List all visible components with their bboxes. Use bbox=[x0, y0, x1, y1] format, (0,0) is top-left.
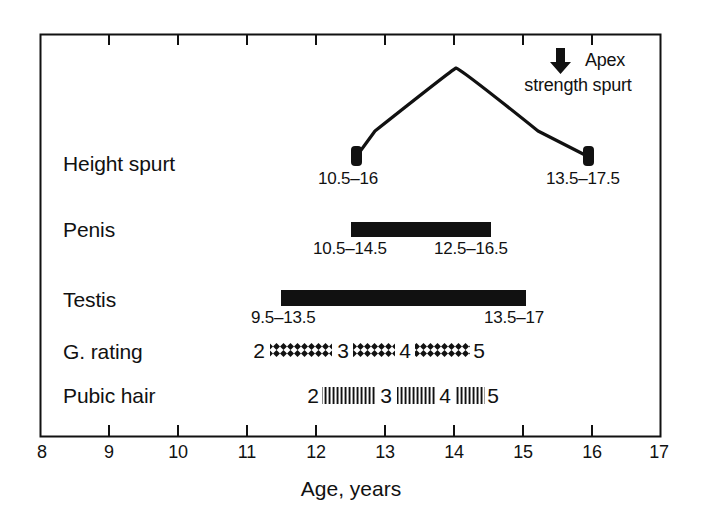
xtick-label-16: 16 bbox=[582, 443, 602, 461]
row-label-testis: Testis bbox=[63, 289, 116, 310]
xtick-label-13: 13 bbox=[375, 443, 395, 461]
pubic-hair-hatch-segments bbox=[322, 387, 485, 404]
pubic-hair-stage-5: 5 bbox=[487, 385, 499, 406]
pubic-hair-stage-2: 2 bbox=[307, 385, 319, 406]
bottom-axis-ticks bbox=[109, 425, 592, 436]
g-rating-stage-4: 4 bbox=[399, 340, 411, 361]
g-rating-hatch-segments bbox=[270, 343, 470, 357]
xtick-label-14: 14 bbox=[444, 443, 464, 461]
xtick-label-8: 8 bbox=[37, 443, 47, 461]
range-label-testis-left: 9.5–13.5 bbox=[251, 309, 316, 326]
range-label-penis-right: 12.5–16.5 bbox=[434, 240, 508, 257]
penis-bar bbox=[351, 222, 491, 237]
g-rating-stage-2: 2 bbox=[253, 340, 265, 361]
xtick-label-15: 15 bbox=[513, 443, 533, 461]
xtick-label-9: 9 bbox=[104, 443, 114, 461]
pubic-hair-stage-3: 3 bbox=[380, 385, 392, 406]
xtick-label-17: 17 bbox=[649, 443, 669, 461]
puberty-sequence-figure: Height spurt Penis Testis G. rating Pubi… bbox=[0, 0, 703, 511]
testis-bar bbox=[281, 290, 526, 306]
xtick-label-10: 10 bbox=[168, 443, 188, 461]
range-label-height-left: 10.5–16 bbox=[318, 170, 378, 187]
top-axis-ticks bbox=[109, 34, 592, 45]
height-spurt-start-marker bbox=[351, 146, 362, 166]
apex-annotation-line2: strength spurt bbox=[524, 76, 631, 94]
range-label-height-right: 13.5–17.5 bbox=[546, 170, 620, 187]
row-label-pubic-hair: Pubic hair bbox=[63, 385, 155, 406]
xtick-label-11: 11 bbox=[238, 443, 256, 461]
g-rating-stage-3: 3 bbox=[337, 340, 349, 361]
row-label-penis: Penis bbox=[63, 219, 115, 240]
g-rating-stage-5: 5 bbox=[473, 340, 485, 361]
apex-annotation-line1: Apex bbox=[585, 51, 625, 69]
range-label-penis-left: 10.5–14.5 bbox=[313, 240, 387, 257]
row-label-height-spurt: Height spurt bbox=[63, 153, 175, 174]
range-label-testis-right: 13.5–17 bbox=[484, 309, 544, 326]
row-label-g-rating: G. rating bbox=[63, 341, 143, 362]
pubic-hair-stage-4: 4 bbox=[439, 385, 451, 406]
x-axis-title: Age, years bbox=[301, 478, 401, 499]
down-arrow-icon bbox=[550, 48, 571, 74]
xtick-label-12: 12 bbox=[306, 443, 326, 461]
height-spurt-end-marker bbox=[583, 146, 594, 166]
